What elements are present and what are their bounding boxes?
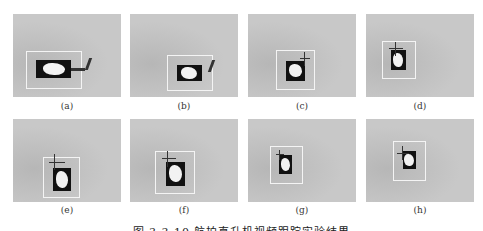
helicopter-target xyxy=(36,60,71,78)
helicopter-target xyxy=(391,50,406,70)
panel-label-g: (g) xyxy=(248,205,356,215)
helicopter-fin xyxy=(85,58,92,70)
panel-h xyxy=(366,119,474,202)
helicopter-tail xyxy=(71,68,85,71)
panel-b xyxy=(130,14,238,97)
helicopter-target xyxy=(286,61,305,81)
panel-label-d: (d) xyxy=(366,101,474,111)
helicopter-target xyxy=(166,162,185,186)
panel-label-f: (f) xyxy=(130,205,238,215)
panel-c xyxy=(248,14,356,97)
panel-e xyxy=(13,119,121,202)
panel-d xyxy=(366,14,474,97)
helicopter-target xyxy=(177,65,202,81)
panel-label-h: (h) xyxy=(366,205,474,215)
helicopter-target xyxy=(53,168,71,191)
panel-label-e: (e) xyxy=(13,205,121,215)
panel-label-c: (c) xyxy=(248,101,356,111)
panel-label-b: (b) xyxy=(130,101,238,111)
figure-caption: 图 3.3.10 航拍直升机视频跟踪实验结果 xyxy=(0,223,483,231)
helicopter-target xyxy=(279,155,292,174)
panel-a xyxy=(13,14,121,97)
panel-label-a: (a) xyxy=(13,101,121,111)
panel-g xyxy=(248,119,356,202)
panel-f xyxy=(130,119,238,202)
